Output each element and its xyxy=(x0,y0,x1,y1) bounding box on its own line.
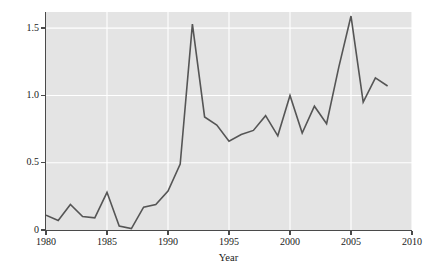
x-tick-label: 1985 xyxy=(87,236,127,247)
x-axis-title: Year xyxy=(45,252,412,263)
x-tick-mark xyxy=(411,231,412,235)
y-tick-label: 0 xyxy=(13,224,39,235)
x-tick-mark xyxy=(45,231,46,235)
plot-canvas xyxy=(46,12,412,230)
x-tick-mark xyxy=(289,231,290,235)
x-tick-mark xyxy=(228,231,229,235)
plot-area xyxy=(46,12,412,230)
y-tick-label-wrap: 1.5 xyxy=(11,22,39,34)
y-tick-label-wrap: 0 xyxy=(11,224,39,236)
y-tick-mark xyxy=(41,27,45,28)
x-tick-label: 1980 xyxy=(26,236,66,247)
y-tick-label: 0.5 xyxy=(13,156,39,167)
y-tick-label: 1.0 xyxy=(13,89,39,100)
data-line-biodiversity-aid xyxy=(46,16,388,229)
x-tick-label: 1995 xyxy=(209,236,249,247)
x-tick-label: 2005 xyxy=(331,236,371,247)
y-axis-spine xyxy=(45,12,46,231)
y-tick-label-wrap: 0.5 xyxy=(11,156,39,168)
y-tick-mark xyxy=(41,95,45,96)
gridlines xyxy=(46,12,412,230)
x-tick-mark xyxy=(106,231,107,235)
x-tick-label: 2000 xyxy=(270,236,310,247)
x-tick-label: 1990 xyxy=(148,236,188,247)
y-tick-label: 1.5 xyxy=(13,22,39,33)
y-tick-label-wrap: 1.0 xyxy=(11,89,39,101)
x-tick-mark xyxy=(350,231,351,235)
x-tick-label: 2010 xyxy=(392,236,427,247)
y-tick-mark xyxy=(41,162,45,163)
x-tick-mark xyxy=(167,231,168,235)
